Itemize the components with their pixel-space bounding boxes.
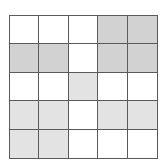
grid-cell-r3-c3 bbox=[69, 73, 98, 101]
grid-cell-r4-c4 bbox=[98, 101, 127, 129]
grid-cell-r5-c3 bbox=[69, 130, 98, 158]
grid-cell-r1-c5 bbox=[128, 16, 157, 44]
grid-cell-r1-c1 bbox=[10, 16, 39, 44]
grid-cell-r4-c5 bbox=[128, 101, 157, 129]
grid-cell-r3-c1 bbox=[10, 73, 39, 101]
shaded-grid bbox=[9, 15, 158, 159]
grid-cell-r5-c5 bbox=[128, 130, 157, 158]
grid-cell-r4-c3 bbox=[69, 101, 98, 129]
grid-cell-r3-c5 bbox=[128, 73, 157, 101]
grid-cell-r5-c4 bbox=[98, 130, 127, 158]
grid-cell-r2-c5 bbox=[128, 44, 157, 72]
grid-cell-r2-c2 bbox=[39, 44, 68, 72]
grid-cell-r5-c1 bbox=[10, 130, 39, 158]
grid-cell-r1-c3 bbox=[69, 16, 98, 44]
grid-cell-r3-c4 bbox=[98, 73, 127, 101]
grid-cell-r4-c2 bbox=[39, 101, 68, 129]
grid-cell-r1-c4 bbox=[98, 16, 127, 44]
grid-cell-r5-c2 bbox=[39, 130, 68, 158]
grid-cell-r3-c2 bbox=[39, 73, 68, 101]
grid-cell-r2-c1 bbox=[10, 44, 39, 72]
grid-cell-r4-c1 bbox=[10, 101, 39, 129]
grid-cell-r1-c2 bbox=[39, 16, 68, 44]
grid-cell-r2-c4 bbox=[98, 44, 127, 72]
grid-cell-r2-c3 bbox=[69, 44, 98, 72]
